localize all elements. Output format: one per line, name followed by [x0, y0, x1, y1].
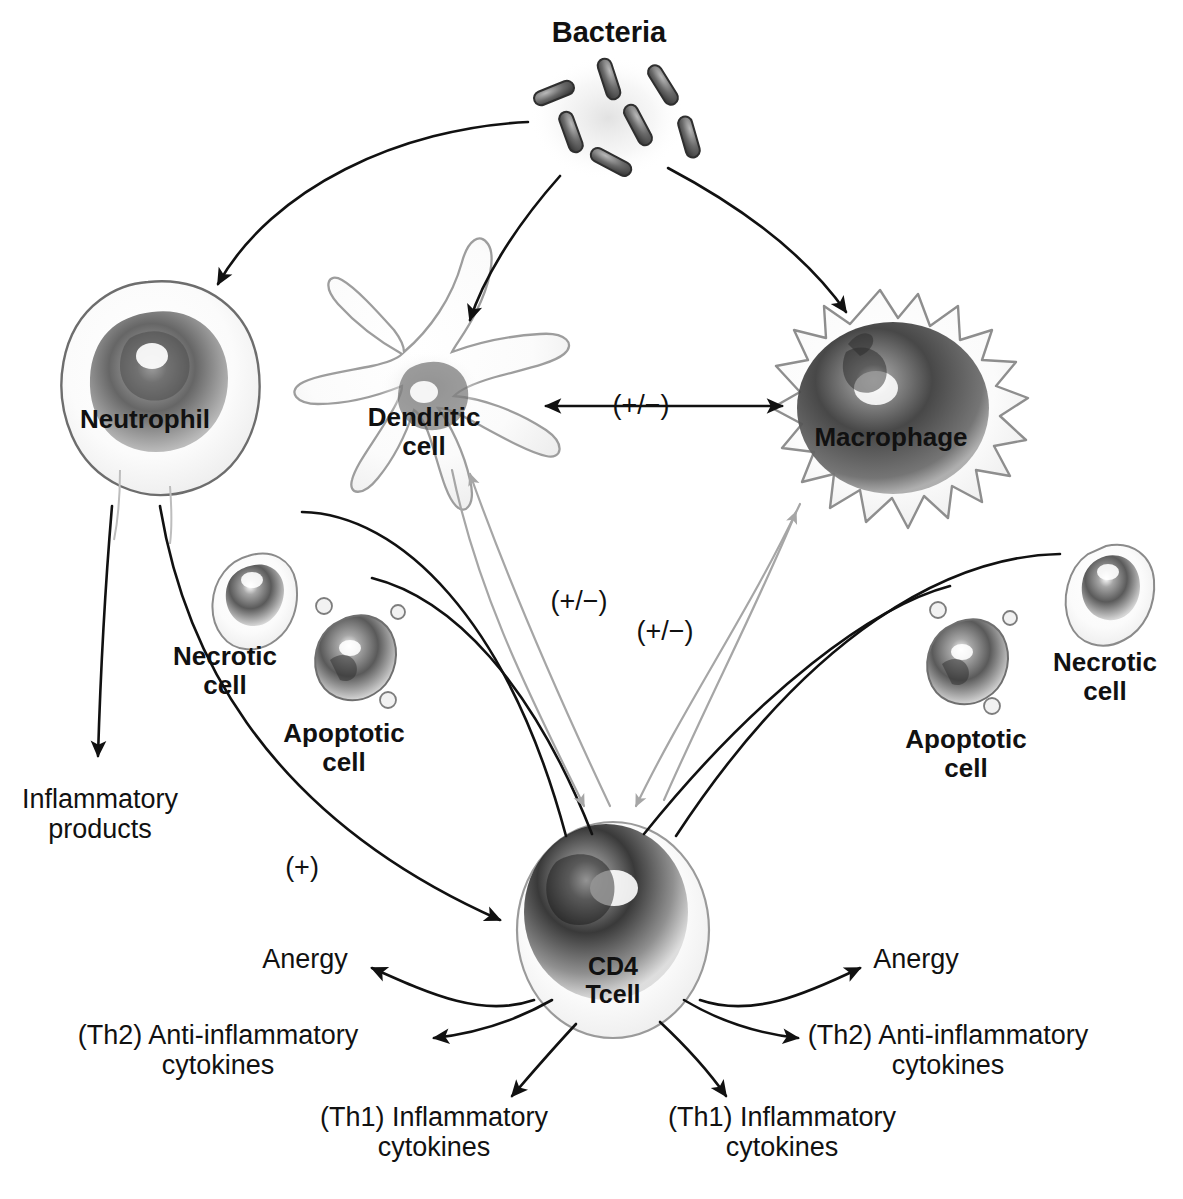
- neutrophil-icon: [61, 281, 259, 544]
- arrow-tcell-to-anergy-right: [700, 968, 860, 1006]
- necrotic-cell-right-icon: [1066, 545, 1155, 646]
- arrow-apoptotic-right-to-tcell: [644, 586, 950, 834]
- label-anergy-left: Anergy: [262, 944, 348, 974]
- arrow-tcell-to-th1-left: [512, 1024, 576, 1096]
- apoptotic-cell-right-icon: [927, 602, 1017, 714]
- label-inflammatory-products: Inflammatory products: [22, 784, 178, 844]
- arrow-necrotic-left-to-tcell: [302, 512, 566, 836]
- label-apoptotic-cell-left: Apoptotic cell: [283, 719, 404, 777]
- label-apoptotic-cell-right: Apoptotic cell: [905, 725, 1026, 783]
- apoptotic-cell-left-icon: [315, 598, 405, 708]
- diagram-canvas: Bacteria Neutrophil Dendritic cell Macro…: [0, 0, 1183, 1199]
- arrow-neutrophil-to-cd4-tcell: [160, 506, 500, 920]
- sign-dendritic-tcell: (+/−): [550, 586, 607, 616]
- arrow-macrophage-to-cd4-tcell: [636, 504, 800, 806]
- necrotic-cell-left-icon: [212, 554, 297, 650]
- label-necrotic-cell-left: Necrotic cell: [173, 642, 277, 700]
- label-macrophage: Macrophage: [814, 423, 967, 452]
- label-th1-inflammatory-left: (Th1) Inflammatory cytokines: [320, 1102, 548, 1162]
- arrow-bacteria-to-dendritic: [470, 176, 560, 320]
- arrow-dendritic-to-cd4-tcell: [452, 470, 584, 806]
- label-th1-inflammatory-right: (Th1) Inflammatory cytokines: [668, 1102, 896, 1162]
- label-dendritic-cell: Dendritic cell: [368, 403, 481, 461]
- dendritic-cell-icon: [294, 238, 569, 509]
- dendritic-cell-nucleus: [378, 350, 482, 430]
- diagram-vector-layer: [0, 0, 1183, 1199]
- arrow-bacteria-to-neutrophil: [218, 122, 528, 284]
- arrow-tcell-to-th1-right: [660, 1022, 726, 1096]
- arrow-bacteria-to-macrophage: [668, 168, 846, 312]
- label-cd4-tcell: CD4 Tcell: [585, 952, 640, 1008]
- sign-dendritic-macrophage: (+/−): [612, 390, 669, 420]
- label-anergy-right: Anergy: [873, 944, 959, 974]
- label-bacteria: Bacteria: [552, 16, 666, 48]
- macrophage-icon: [772, 290, 1028, 528]
- arrow-tcell-to-th2-right: [684, 1000, 798, 1038]
- sign-neutrophil-positive: (+): [285, 852, 319, 882]
- label-necrotic-cell-right: Necrotic cell: [1053, 648, 1157, 706]
- arrow-necrotic-right-to-tcell: [676, 554, 1060, 836]
- sign-macrophage-tcell: (+/−): [636, 616, 693, 646]
- label-th2-anti-inflammatory-right: (Th2) Anti-inflammatory cytokines: [808, 1020, 1089, 1080]
- label-th2-anti-inflammatory-left: (Th2) Anti-inflammatory cytokines: [78, 1020, 359, 1080]
- arrow-neutrophil-to-inflammatory-products: [98, 506, 112, 756]
- arrow-tcell-to-th2-left: [434, 1000, 552, 1038]
- label-neutrophil: Neutrophil: [80, 405, 210, 434]
- arrow-cd4-tcell-to-dendritic: [470, 474, 610, 806]
- arrow-cd4-tcell-to-macrophage: [664, 512, 796, 800]
- arrow-apoptotic-left-to-tcell: [372, 578, 592, 834]
- bacteria-cluster-icon: [530, 56, 702, 180]
- arrow-tcell-to-anergy-left: [372, 968, 534, 1006]
- cd4-tcell-icon: [517, 822, 709, 1038]
